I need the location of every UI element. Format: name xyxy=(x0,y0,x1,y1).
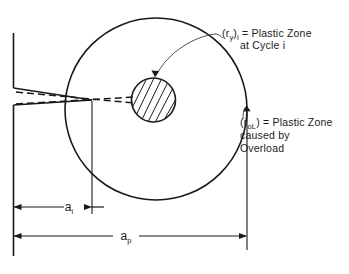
arrowhead-ai-right xyxy=(84,204,92,210)
arrowhead-ap-right xyxy=(239,233,247,239)
annotation-overload-plastic-zone: (roL) = Plastic Zone caused by Overload xyxy=(240,116,333,154)
annotation-cycle-plastic-zone: (ry)i = Plastic Zone at Cycle i xyxy=(222,27,312,51)
dimension-a-p: ap xyxy=(14,229,248,245)
svg-text:ap: ap xyxy=(121,229,132,245)
dimension-extension-lines xyxy=(92,101,247,250)
plastic-zone-diagram: (ry)i = Plastic Zone at Cycle i (roL) = … xyxy=(0,0,349,274)
arrowhead-ai-left xyxy=(14,204,22,210)
leader-arrowhead-cycle xyxy=(151,71,159,77)
cycle-plastic-zone-hatch xyxy=(119,78,186,136)
ry-equals: = Plastic Zone xyxy=(239,27,312,39)
dimension-a-i: ai xyxy=(14,200,105,216)
ry-line-2: at Cycle i xyxy=(240,39,285,51)
crack-extension-dashed xyxy=(16,92,134,104)
rol-equals: = Plastic Zone xyxy=(260,116,333,128)
arrowhead-ap-left xyxy=(14,233,22,239)
figure-root: (ry)i = Plastic Zone at Cycle i (roL) = … xyxy=(0,0,349,274)
dim-ai-subscript: i xyxy=(72,207,74,216)
dim-ap-subscript: p xyxy=(127,236,131,245)
cycle-plastic-zone-circle xyxy=(132,78,176,122)
svg-text:ai: ai xyxy=(65,200,74,216)
leader-cycle-plastic-zone xyxy=(151,34,222,77)
